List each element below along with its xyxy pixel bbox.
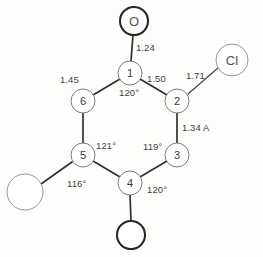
bond-4-to-bottom-group	[130, 195, 131, 221]
bond-1-to-oxygen	[131, 35, 133, 61]
vertex-label-6: 6	[80, 95, 86, 107]
structure-canvas: O Cl 1 2 3 4 5 6 1.24 1.45 1.50 1.71 1.3…	[0, 0, 263, 257]
group-left-circle	[7, 174, 43, 210]
bond-length-1-45: 1.45	[60, 74, 79, 85]
bond-angle-at-5-upper: 121°	[96, 140, 116, 151]
bond-length-1-34-angstrom: 1.34 A	[182, 122, 210, 133]
bond-angle-at-5-lower: 116°	[67, 178, 86, 189]
bond-6-1	[93, 79, 120, 95]
bond-4-5	[93, 161, 120, 177]
bond-length-1-71: 1.71	[186, 70, 205, 81]
substituent-circle-group	[7, 7, 248, 249]
vertex-label-2: 2	[174, 95, 180, 107]
chlorine-right-label: Cl	[226, 53, 238, 68]
vertex-label-1: 1	[127, 67, 133, 79]
bond-angle-at-1: 120°	[119, 87, 139, 98]
bond-length-1-24: 1.24	[136, 42, 155, 53]
bond-angle-at-4: 120°	[147, 184, 167, 195]
vertex-label-5: 5	[80, 149, 86, 161]
bond-angle-at-3: 119°	[143, 141, 162, 152]
molecular-structure-diagram: O Cl 1 2 3 4 5 6 1.24 1.45 1.50 1.71 1.3…	[0, 0, 263, 257]
ring-vertex-circle-group	[71, 61, 189, 195]
vertex-label-4: 4	[127, 177, 133, 189]
group-bottom-circle	[117, 221, 145, 249]
vertex-label-3: 3	[174, 149, 180, 161]
oxygen-top-label: O	[129, 14, 139, 29]
bond-length-1-50: 1.50	[147, 73, 166, 84]
bond-3-4	[140, 161, 167, 177]
